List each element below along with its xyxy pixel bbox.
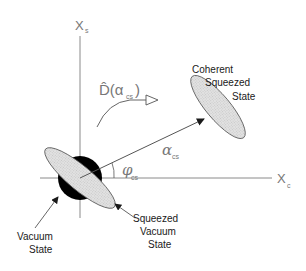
alpha-subscript: cs bbox=[172, 153, 180, 160]
x-axis-subscript: c bbox=[287, 182, 291, 189]
y-axis-label: X bbox=[75, 18, 84, 33]
x-axis-label: X bbox=[277, 171, 286, 186]
vacuum-label-line2: State bbox=[29, 244, 53, 255]
operator-curve bbox=[97, 100, 146, 127]
operator-label: D̂(α bbox=[99, 81, 124, 98]
y-axis-subscript: s bbox=[85, 27, 89, 34]
alpha-label: α bbox=[162, 141, 172, 159]
operator-subscript: cs bbox=[126, 93, 134, 100]
operator-close-paren: ) bbox=[135, 81, 140, 98]
squeezed-vacuum-label-line1: Squeezed bbox=[133, 213, 178, 224]
squeezed-vacuum-pointer bbox=[115, 204, 135, 218]
squeezed-vacuum-label-line3: State bbox=[148, 239, 172, 250]
coherent-squeezed-label-line3: State bbox=[232, 91, 256, 102]
vacuum-label-line1: Vacuum bbox=[17, 231, 53, 242]
squeezed-vacuum-label-line2: Vacuum bbox=[140, 226, 176, 237]
displacement-vector bbox=[80, 119, 204, 178]
phi-subscript: cs bbox=[131, 174, 139, 181]
squeezed-state-diagram: X s X c φ cs α cs D̂(α cs ) Coherent Squ… bbox=[0, 0, 306, 271]
coherent-squeezed-label-line2: Squeezed bbox=[205, 77, 250, 88]
coherent-squeezed-label-line1: Coherent bbox=[192, 64, 233, 75]
operator-arrowhead-icon bbox=[146, 95, 158, 105]
phi-angle-arc bbox=[112, 163, 114, 178]
vacuum-pointer bbox=[35, 197, 58, 228]
